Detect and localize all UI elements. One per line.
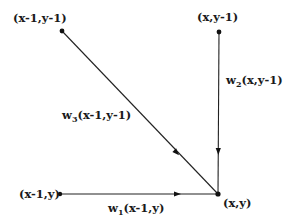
node-label-top-right: (x,y-1) xyxy=(197,10,238,24)
node-bottom-right-dot xyxy=(215,191,220,196)
diagram-canvas: (x-1,y-1) (x,y-1) (x-1,y) (x,y) w3(x-1,y… xyxy=(0,0,286,224)
node-label-bottom-right: (x,y) xyxy=(223,196,251,210)
node-label-bottom-left: (x-1,y) xyxy=(19,187,60,201)
graph-svg: (x-1,y-1) (x,y-1) (x-1,y) (x,y) w3(x-1,y… xyxy=(0,0,286,224)
node-top-right-dot xyxy=(217,30,222,35)
node-label-top-left: (x-1,y-1) xyxy=(13,11,67,25)
edge-vertical xyxy=(218,32,219,194)
weight-argument: (x-1,y-1) xyxy=(77,108,131,122)
arrowhead-diagonal-icon xyxy=(172,148,181,157)
arrowhead-horizontal-icon xyxy=(174,191,181,196)
weight-argument: (x,y-1) xyxy=(241,73,282,87)
edge-label-w3: w3(x-1,y-1) xyxy=(61,108,131,124)
node-top-left-dot xyxy=(60,29,65,34)
arrowhead-vertical-icon xyxy=(216,148,221,155)
weight-argument: (x-1,y) xyxy=(123,201,164,215)
edge-label-w2: w2(x,y-1) xyxy=(225,73,283,89)
edge-label-w1: w1(x-1,y) xyxy=(107,201,164,217)
